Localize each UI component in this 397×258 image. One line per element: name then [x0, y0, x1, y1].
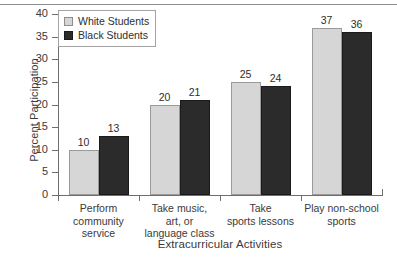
y-axis-tick-label: 40: [22, 7, 48, 19]
y-axis-tick: [52, 105, 58, 106]
bar: [150, 105, 180, 196]
x-axis-category-label: Take sports lessons: [214, 202, 307, 227]
y-axis-tick-label: 35: [22, 30, 48, 42]
y-axis-tick-label: 15: [22, 120, 48, 132]
legend-item-white-students: White Students: [64, 14, 149, 28]
x-axis-tick: [58, 195, 59, 201]
bar-value-label: 10: [64, 136, 104, 148]
legend-item-black-students: Black Students: [64, 28, 149, 42]
x-axis-title: Extracurricular Activities: [58, 238, 382, 250]
bar-value-label: 13: [94, 122, 134, 134]
y-axis-tick: [52, 172, 58, 173]
legend-label: Black Students: [78, 29, 148, 41]
bar-chart-figure: Percent Participation Extracurricular Ac…: [0, 0, 397, 258]
bar: [261, 86, 291, 195]
y-axis-tick-label: 20: [22, 98, 48, 110]
bar: [69, 150, 99, 195]
y-axis-tick: [52, 82, 58, 83]
legend-swatch-black-icon: [64, 31, 73, 40]
bar: [231, 82, 261, 195]
chart-legend: White Students Black Students: [58, 10, 156, 47]
bar: [342, 32, 372, 195]
y-axis-tick-label: 25: [22, 75, 48, 87]
bar-value-label: 21: [175, 86, 215, 98]
bar-value-label: 24: [256, 72, 296, 84]
top-divider: [0, 4, 397, 5]
x-axis-tick: [220, 195, 221, 201]
x-axis-tick: [301, 195, 302, 201]
y-axis-tick: [52, 59, 58, 60]
legend-label: White Students: [78, 15, 149, 27]
y-axis-tick: [52, 127, 58, 128]
x-axis-category-label: Play non-school sports: [295, 202, 388, 227]
bar: [312, 28, 342, 195]
legend-swatch-white-icon: [64, 17, 73, 26]
bar: [99, 136, 129, 195]
x-axis-tick: [139, 195, 140, 201]
x-axis-category-label: Take music, art, or language class: [133, 202, 226, 240]
x-axis-category-label: Perform community service: [52, 202, 145, 240]
y-axis-tick-label: 10: [22, 143, 48, 155]
y-axis-tick-label: 30: [22, 52, 48, 64]
y-axis-tick-label: 0: [22, 188, 48, 200]
y-axis-tick: [52, 150, 58, 151]
bar-value-label: 36: [337, 18, 377, 30]
y-axis-tick-label: 5: [22, 165, 48, 177]
x-axis-end-tick: [382, 189, 383, 196]
bar: [180, 100, 210, 195]
